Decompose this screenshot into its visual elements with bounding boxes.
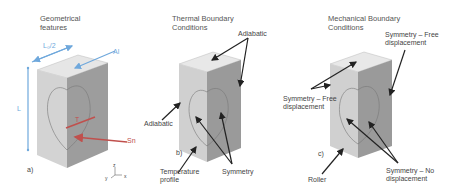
annotation-adiabatic-side: Adiabatic bbox=[144, 120, 173, 128]
label-half-width: L₀/2 bbox=[43, 42, 56, 50]
block-a bbox=[27, 46, 127, 178]
panel-a-label: a) bbox=[27, 166, 33, 174]
panel-c-title: Mechanical Boundary Conditions bbox=[328, 14, 400, 32]
label-al: Al bbox=[113, 48, 119, 56]
annotation-roller: Roller bbox=[308, 176, 326, 184]
annotation-temperature-profile: Temperature profile bbox=[160, 168, 199, 184]
panel-c-label: c) bbox=[318, 150, 324, 158]
annotation-symmetry-free-side: Symmetry – Free displacement bbox=[283, 95, 337, 111]
annotation-adiabatic-top: Adiabatic bbox=[238, 30, 267, 38]
block-c bbox=[311, 50, 405, 174]
axis-x-label: x bbox=[124, 172, 127, 180]
axis-y-label: y bbox=[105, 174, 108, 182]
panel-b-label: b) bbox=[176, 149, 182, 157]
panel-a-title: Geometrical features bbox=[40, 14, 80, 32]
annotation-symmetry-no-displacement: Symmetry – No displacement bbox=[386, 167, 434, 183]
annotation-symmetry-free-top: Symmetry – Free displacement bbox=[385, 31, 439, 47]
label-length: L bbox=[17, 105, 21, 113]
block-b bbox=[162, 38, 248, 173]
axis-z-label: z bbox=[113, 161, 116, 169]
label-inner: T bbox=[75, 116, 79, 124]
panel-b-title: Thermal Boundary Conditions bbox=[172, 14, 234, 32]
annotation-symmetry: Symmetry bbox=[222, 168, 254, 176]
label-sn: Sn bbox=[127, 137, 136, 145]
